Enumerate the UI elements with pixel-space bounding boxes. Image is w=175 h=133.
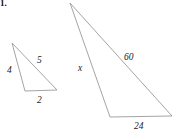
similar-triangles-figure: 1. 4 5 2 x 60 24 <box>0 0 175 133</box>
small-triangle-base-label: 2 <box>37 95 42 105</box>
small-triangle-group: 4 5 2 <box>7 43 57 105</box>
large-triangle-group: x 60 24 <box>70 3 172 131</box>
small-triangle-left-side-label: 4 <box>7 65 12 75</box>
small-triangle-outline <box>12 43 57 91</box>
large-triangle-base-label: 24 <box>134 121 144 131</box>
large-triangle-left-side-label: x <box>77 63 83 73</box>
triangles-canvas: 4 5 2 x 60 24 <box>0 0 175 133</box>
small-triangle-hypotenuse-label: 5 <box>37 55 42 65</box>
large-triangle-outline <box>70 3 172 117</box>
large-triangle-hypotenuse-label: 60 <box>124 52 134 62</box>
